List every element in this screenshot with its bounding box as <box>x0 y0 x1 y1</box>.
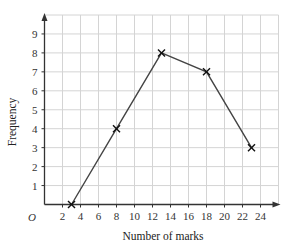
y-tick-label: 6 <box>32 85 38 97</box>
y-tick-label: 4 <box>32 123 38 135</box>
x-tick-label: 16 <box>183 210 195 222</box>
grid <box>45 15 279 205</box>
x-tick-label: 4 <box>78 210 84 222</box>
ticks: 24681012141618202224123456789 <box>32 28 267 222</box>
y-axis-title: Frequency <box>6 97 19 146</box>
y-tick-label: 1 <box>32 180 38 192</box>
x-tick-label: 10 <box>129 210 141 222</box>
x-tick-label: 2 <box>60 210 66 222</box>
y-tick-label: 3 <box>32 142 38 154</box>
x-tick-label: 8 <box>114 210 120 222</box>
x-axis-title: Number of marks <box>122 230 204 242</box>
x-axis-arrow-icon <box>273 202 281 208</box>
x-tick-label: 22 <box>237 210 248 222</box>
x-tick-label: 12 <box>147 210 158 222</box>
x-tick-label: 14 <box>165 210 177 222</box>
y-tick-label: 7 <box>32 66 38 78</box>
x-tick-label: 24 <box>255 210 267 222</box>
x-tick-label: 20 <box>219 210 231 222</box>
y-tick-label: 5 <box>32 104 38 116</box>
x-tick-label: 6 <box>96 210 102 222</box>
frequency-polygon-chart: 24681012141618202224123456789 O Number o… <box>0 0 291 245</box>
y-axis-arrow-icon <box>42 13 48 21</box>
y-tick-label: 9 <box>32 28 38 40</box>
x-tick-label: 18 <box>201 210 213 222</box>
origin-label: O <box>28 211 36 223</box>
y-tick-label: 8 <box>32 47 38 59</box>
y-tick-label: 2 <box>32 161 38 173</box>
